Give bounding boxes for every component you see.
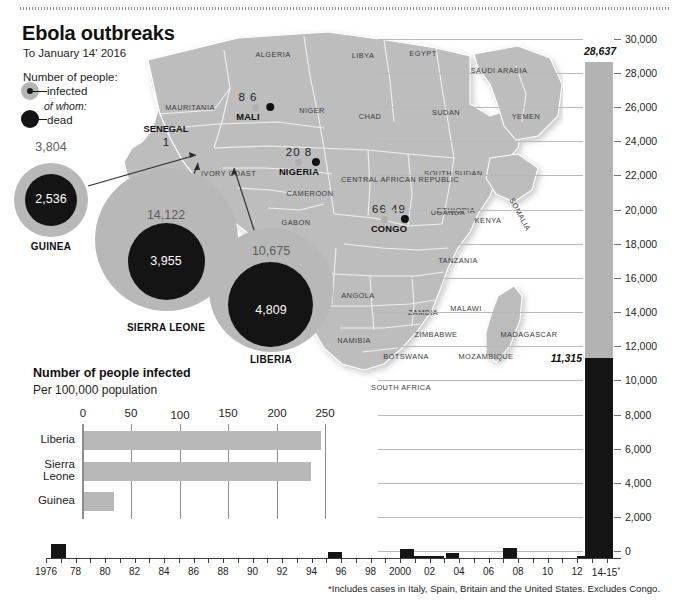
timeline-tick-1997 xyxy=(356,558,357,563)
timeline-label-1986: 86 xyxy=(188,566,199,577)
timeline-tick-1979 xyxy=(90,558,91,563)
col-chart-tickmark-12000 xyxy=(614,346,621,347)
col-chart-ylabel-8000: 8,000 xyxy=(625,409,651,421)
bar-chart-subtitle: Per 100,000 population xyxy=(33,383,157,397)
col-chart-tickmark-14000 xyxy=(614,312,621,313)
timeline-tick-2011 xyxy=(562,558,563,563)
col-chart-ylabel-10000: 10,000 xyxy=(625,374,657,386)
col-chart-gridline-12000 xyxy=(378,346,583,347)
timeline-label-1988: 88 xyxy=(217,566,228,577)
timeline-bar-2007 xyxy=(503,548,517,558)
timeline-bar-2003 xyxy=(446,553,459,558)
col-chart-tickmark-0 xyxy=(614,551,621,552)
timeline-label-1990: 90 xyxy=(247,566,258,577)
col-chart-gridline-20000 xyxy=(378,210,583,211)
bubble-guinea-name: GUINEA xyxy=(31,241,72,252)
timeline-tick-2004 xyxy=(459,558,460,563)
timeline-tick-2007 xyxy=(503,558,504,563)
timeline-tick-1980 xyxy=(105,558,106,563)
col-chart-infected-value: 28,637 xyxy=(584,45,616,57)
timeline-tick-1982 xyxy=(135,558,136,563)
bubble-sierra-leone-name: SIERRA LEONE xyxy=(127,322,205,333)
timeline-tick-1987 xyxy=(208,558,209,563)
timeline-label-1982: 82 xyxy=(129,566,140,577)
timeline-tick-1984 xyxy=(164,558,165,563)
bubble-sierra-leone-infected-value: 14,122 xyxy=(147,208,185,222)
timeline-tick-1985 xyxy=(179,558,180,563)
bubble-liberia-infected-value: 10,675 xyxy=(252,244,290,258)
col-chart-gridline-2000 xyxy=(378,517,583,518)
timeline-label-1980: 80 xyxy=(99,566,110,577)
timeline-tick-2006 xyxy=(489,558,490,563)
timeline-tick-2012 xyxy=(577,558,578,563)
col-chart-gridline-10000 xyxy=(378,380,583,381)
timeline-tick-2008 xyxy=(518,558,519,563)
col-chart-gridline-22000 xyxy=(378,175,583,176)
infographic-root: Ebola outbreaks To January 14' 2016 Numb… xyxy=(0,0,675,600)
bar-chart-bar-liberia xyxy=(84,431,321,450)
timeline-bar-2014-15 xyxy=(585,358,613,558)
col-chart-tickmark-18000 xyxy=(614,244,621,245)
col-chart-ylabel-18000: 18,000 xyxy=(625,238,657,250)
timeline-label-2014-15: 14-15* xyxy=(592,566,620,578)
col-chart-tickmark-30000 xyxy=(614,39,621,40)
timeline-tick-2002 xyxy=(430,558,431,563)
col-chart-ylabel-4000: 4,000 xyxy=(625,477,651,489)
bar-chart-xtick-100: 100 xyxy=(170,409,189,421)
col-chart-tickmark-28000 xyxy=(614,73,621,74)
col-chart-tickmark-8000 xyxy=(614,415,621,416)
timeline-tick-2000 xyxy=(400,558,401,563)
timeline-tick-2009 xyxy=(533,558,534,563)
col-chart-gridline-6000 xyxy=(378,449,583,450)
timeline-tick-1993 xyxy=(297,558,298,563)
col-chart-ylabel-24000: 24,000 xyxy=(625,135,657,147)
bar-chart-title: Number of people infected xyxy=(33,366,191,380)
timeline-bar-2001 xyxy=(414,556,444,558)
col-chart-tickmark-10000 xyxy=(614,380,621,381)
timeline-axis xyxy=(46,558,621,559)
timeline-bar-1976 xyxy=(51,544,66,558)
bubble-guinea-infected-value: 3,804 xyxy=(35,140,66,154)
timeline-tick-1977 xyxy=(61,558,62,563)
col-chart-tickmark-16000 xyxy=(614,278,621,279)
col-chart-tickmark-6000 xyxy=(614,449,621,450)
col-chart-ylabel-30000: 30,000 xyxy=(625,33,657,45)
timeline-label-1978: 78 xyxy=(70,566,81,577)
timeline-tick-1976 xyxy=(46,558,47,563)
timeline-tick-1992 xyxy=(282,558,283,563)
bar-chart-xtick-200: 200 xyxy=(267,407,286,419)
timeline-label-2000: 2000 xyxy=(389,566,411,577)
col-chart-ylabel-16000: 16,000 xyxy=(625,272,657,284)
bar-chart-xtick-150: 150 xyxy=(218,407,237,419)
timeline-tick-2005 xyxy=(474,558,475,563)
bubble-liberia-dead-value: 4,809 xyxy=(255,303,286,317)
col-chart-ylabel-0: 0 xyxy=(625,545,631,557)
col-chart-ylabel-22000: 22,000 xyxy=(625,169,657,181)
col-chart-ylabel-2000: 2,000 xyxy=(625,511,651,523)
col-chart-gridline-26000 xyxy=(378,107,583,108)
timeline-label-1976: 1976 xyxy=(35,566,57,577)
timeline-tick-1999 xyxy=(385,558,386,563)
timeline-tick-2001 xyxy=(415,558,416,563)
timeline-label-1994: 94 xyxy=(306,566,317,577)
col-chart-tickmark-24000 xyxy=(614,141,621,142)
col-chart-gridline-28000 xyxy=(378,73,583,74)
footnote: *Includes cases in Italy, Spain, Britain… xyxy=(328,583,660,594)
bar-chart-xtick-50: 50 xyxy=(125,407,138,419)
timeline-tick-1986 xyxy=(194,558,195,563)
timeline-tick-2010 xyxy=(548,558,549,563)
bar-chart-xtick-250: 250 xyxy=(315,407,334,419)
timeline-label-1998: 98 xyxy=(365,566,376,577)
bar-chart-bar-guinea xyxy=(84,492,114,511)
col-chart-dead-value: 11,315 xyxy=(551,352,582,364)
timeline-label-2010: 10 xyxy=(542,566,553,577)
col-chart-tickmark-22000 xyxy=(614,175,621,176)
col-chart-ylabel-20000: 20,000 xyxy=(625,204,657,216)
col-chart-gridline-4000 xyxy=(378,483,583,484)
timeline-label-2008: 08 xyxy=(512,566,523,577)
timeline-tick-2003 xyxy=(444,558,445,563)
timeline-tick-1994 xyxy=(312,558,313,563)
timeline-bar-2000 xyxy=(400,549,414,558)
timeline-label-1984: 84 xyxy=(158,566,169,577)
col-chart-tickmark-2000 xyxy=(614,517,621,518)
